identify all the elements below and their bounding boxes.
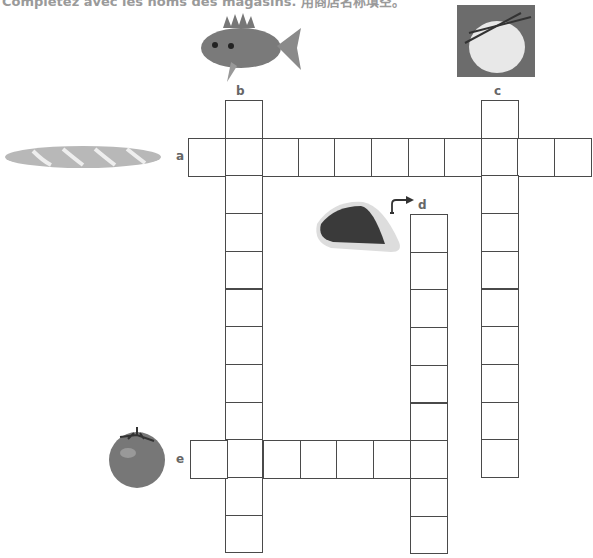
grid-cell-b-7[interactable] [225,326,263,365]
grid-cell-d-9[interactable] [410,516,448,555]
grid-cell-c-10[interactable] [481,439,519,478]
clue-label-b: b [236,84,245,98]
grid-cell-b-12[interactable] [225,515,263,554]
grid-cell-e-4[interactable] [300,440,338,479]
clue-label-c: c [494,84,501,98]
grid-cell-b-6[interactable] [225,289,263,328]
grid-cell-d-5[interactable] [410,365,448,404]
grid-cell-d-3[interactable] [410,289,448,328]
grid-cell-c-8[interactable] [481,364,519,403]
grid-cell-a-4[interactable] [298,138,336,177]
grid-cell-b-9[interactable] [225,402,263,441]
grid-cell-b-1[interactable] [225,100,263,139]
grid-cell-b-4[interactable] [225,213,263,252]
arrow-icon [386,196,416,216]
grid-cell-c-7[interactable] [481,326,519,365]
grid-cell-c-4[interactable] [481,213,519,252]
fish-icon [193,10,305,85]
grid-cell-d-4[interactable] [410,327,448,366]
grid-cell-a-6[interactable] [371,138,409,177]
grid-cell-a-11[interactable] [554,138,592,177]
clue-label-e: e [176,452,184,466]
grid-cell-d-8[interactable] [410,478,448,517]
grid-cell-d-6[interactable] [410,403,448,442]
grid-cell-e-6[interactable] [373,440,411,479]
clue-label-d: d [418,198,427,212]
grid-cell-d-1[interactable] [410,214,448,253]
grid-cell-b-3[interactable] [225,175,263,214]
grid-cell-b-5[interactable] [225,251,263,290]
grid-cell-a-9[interactable] [481,138,519,177]
grid-cell-b-11[interactable] [225,477,263,516]
grid-cell-a-3[interactable] [261,138,299,177]
grid-cell-e-1[interactable] [190,440,228,479]
grid-cell-d-2[interactable] [410,252,448,291]
instruction-text: Complétez avec les noms des magasins. 用商… [2,0,405,10]
grid-cell-b-8[interactable] [225,364,263,403]
grid-cell-b-2[interactable] [225,138,263,177]
grid-cell-c-6[interactable] [481,289,519,328]
grid-cell-a-7[interactable] [408,138,446,177]
grid-cell-a-5[interactable] [334,138,372,177]
grid-cell-b-10[interactable] [225,439,263,478]
grid-cell-a-10[interactable] [517,138,555,177]
grid-cell-a-8[interactable] [444,138,482,177]
grid-cell-e-5[interactable] [336,440,374,479]
grid-cell-c-3[interactable] [481,175,519,214]
grid-cell-c-9[interactable] [481,402,519,441]
clue-label-a: a [176,149,184,163]
grid-cell-c-1[interactable] [481,100,519,139]
tomato-icon [106,425,168,489]
cheese-icon [457,5,535,77]
baguette-icon [3,143,163,171]
grid-cell-d-7[interactable] [410,440,448,479]
grid-cell-c-5[interactable] [481,251,519,290]
grid-cell-a-1[interactable] [188,138,226,177]
grid-cell-e-3[interactable] [263,440,301,479]
